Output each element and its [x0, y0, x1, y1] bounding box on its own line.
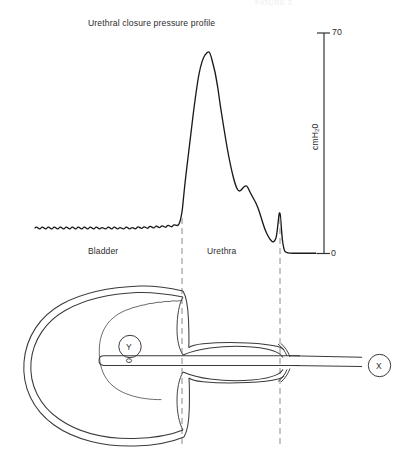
- region-label-urethra: Urethra: [207, 246, 236, 256]
- axis-unit-label: cmH₂0: [310, 123, 320, 150]
- bladder-outer-wall: [24, 286, 184, 446]
- catheter-external-shaft-lower: [290, 365, 362, 366]
- urethra-lower-inner-wall: [183, 370, 283, 381]
- bladder-neck-lower: [184, 378, 189, 437]
- catheter-side-hole: [126, 359, 131, 363]
- cut-off-figure-caption: FIGURE 2.: [255, 0, 295, 7]
- bladder-neck-inner-upper: [177, 297, 183, 355]
- catheter-group: [99, 356, 362, 367]
- marker-y-label: Y: [126, 342, 132, 352]
- bladder-anatomy-group: [24, 286, 190, 446]
- bladder-neck-upper: [183, 291, 189, 348]
- figure-page: FIGURE 2. Urethral closure pressure prof…: [0, 0, 400, 460]
- pressure-trace-line: [35, 52, 316, 253]
- marker-x-label: X: [376, 361, 382, 371]
- pressure-trace-group: [35, 52, 316, 253]
- catheter-intravesical-lower: [99, 361, 300, 366]
- figure-canvas: [0, 0, 400, 460]
- chart-title: Urethral closure pressure profile: [88, 18, 215, 28]
- catheter-external-shaft-upper: [290, 356, 362, 357]
- region-label-bladder: Bladder: [88, 246, 118, 256]
- axis-min-label: 0: [331, 248, 336, 258]
- axis-max-label: 70: [332, 27, 342, 37]
- urethra-anatomy-group: [183, 343, 290, 383]
